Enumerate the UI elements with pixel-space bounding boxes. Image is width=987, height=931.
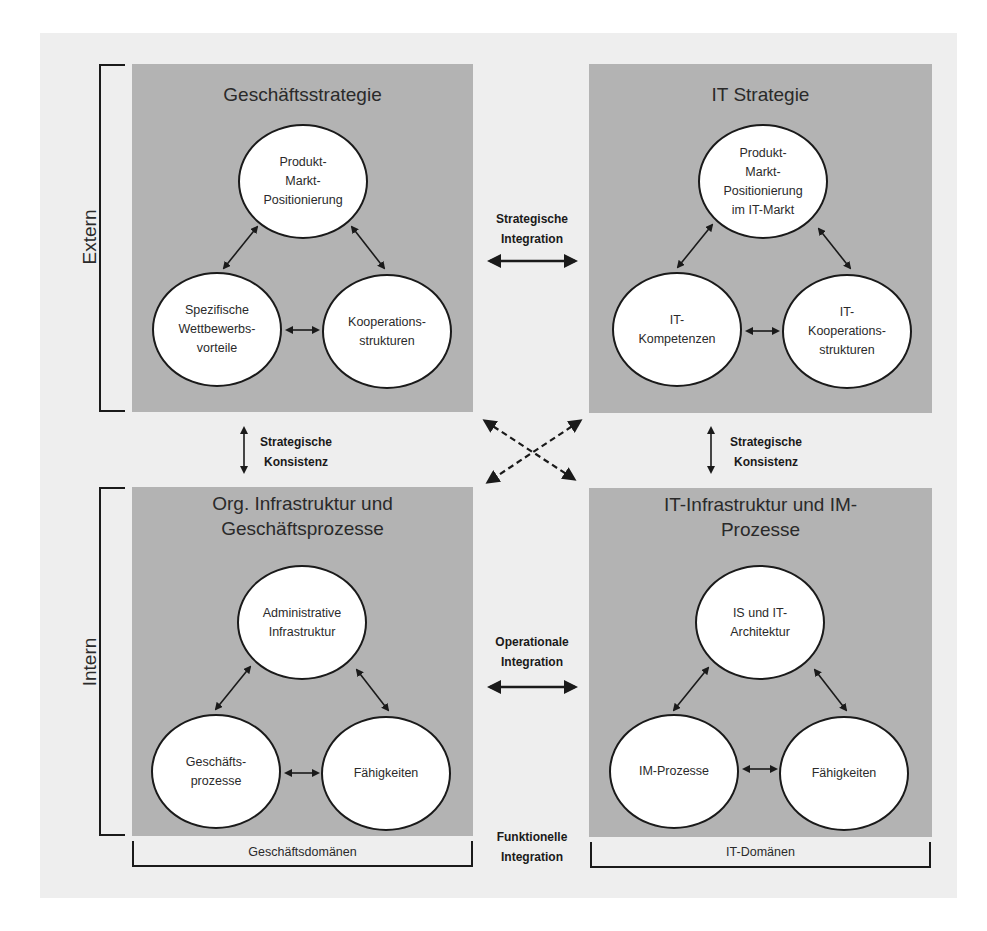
node-label: Fähigkeiten	[354, 764, 419, 783]
node-label: IM-Prozesse	[639, 762, 709, 781]
node-it-cooperation-structures: IT- Kooperations- strukturen	[782, 274, 912, 389]
quadrant-title: Geschäftsstrategie	[132, 82, 473, 107]
node-label: Kooperations- strukturen	[348, 313, 426, 351]
node-label: Spezifische Wettbewerbs- vorteile	[179, 301, 256, 358]
node-capabilities: Fähigkeiten	[321, 716, 451, 831]
quadrant-title: Org. Infrastruktur und Geschäftsprozesse	[132, 491, 473, 541]
node-label: Geschäfts- prozesse	[186, 753, 246, 791]
strategic-alignment-diagram: Geschäftsstrategie Produkt- Markt- Posit…	[0, 0, 987, 931]
node-is-it-architecture: IS und IT- Architektur	[695, 565, 825, 680]
side-label-intern: Intern	[79, 622, 101, 702]
domain-label-it: IT-Domänen	[589, 845, 932, 859]
label-strategic-integration: Strategische Integration	[478, 209, 586, 249]
quadrant-title: IT Strategie	[589, 82, 932, 107]
node-label: Administrative Infrastruktur	[263, 604, 342, 642]
node-it-market-positioning: Produkt- Markt- Positionierung im IT-Mar…	[698, 124, 828, 239]
node-label: IS und IT- Architektur	[730, 604, 790, 642]
side-label-extern: Extern	[79, 197, 101, 277]
quadrant-title: IT-Infrastruktur und IM- Prozesse	[589, 492, 932, 542]
node-competitive-advantages: Spezifische Wettbewerbs- vorteile	[152, 272, 282, 387]
node-administrative-infrastructure: Administrative Infrastruktur	[237, 565, 367, 680]
label-operational-integration: Operationale Integration	[478, 632, 586, 672]
label-functional-integration: Funktionelle Integration	[478, 827, 586, 867]
node-label: IT- Kooperations- strukturen	[808, 303, 886, 360]
node-product-market-positioning: Produkt- Markt- Positionierung	[238, 124, 368, 239]
label-strategic-consistency-right: Strategische Konsistenz	[716, 432, 816, 472]
node-label: Produkt- Markt- Positionierung	[263, 153, 342, 210]
node-label: Fähigkeiten	[812, 764, 877, 783]
node-im-processes: IM-Prozesse	[609, 714, 739, 829]
node-it-capabilities: Fähigkeiten	[779, 716, 909, 831]
node-cooperation-structures: Kooperations- strukturen	[322, 274, 452, 389]
node-it-competencies: IT- Kompetenzen	[612, 272, 742, 387]
domain-label-business: Geschäftsdomänen	[132, 845, 473, 859]
node-label: Produkt- Markt- Positionierung im IT-Mar…	[723, 144, 802, 220]
node-business-processes: Geschäfts- prozesse	[151, 714, 281, 829]
node-label: IT- Kompetenzen	[638, 311, 715, 349]
label-strategic-consistency-left: Strategische Konsistenz	[246, 432, 346, 472]
